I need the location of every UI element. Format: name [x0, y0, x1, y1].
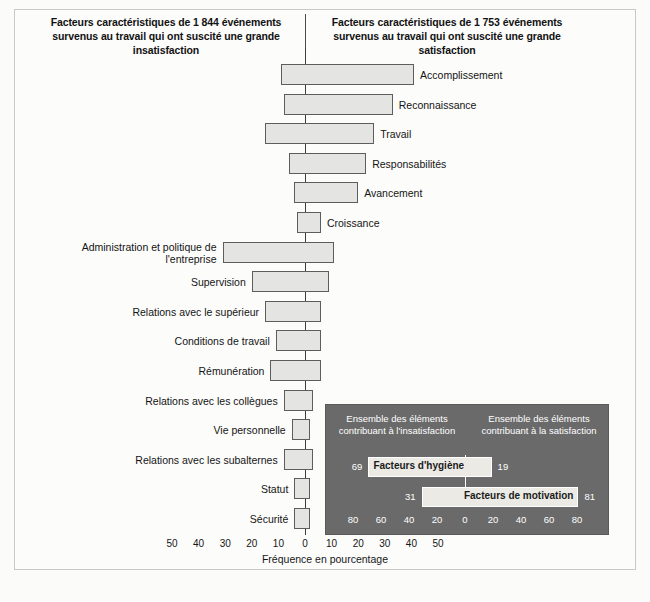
bar-label: Relations avec le supérieur	[132, 306, 259, 318]
inset-bar-label: Facteurs d'hygiène	[373, 460, 464, 471]
bar-row: Croissance	[0, 212, 650, 234]
bar-row: Conditions de travail	[0, 330, 650, 352]
inset-tick-40-2: 40	[399, 514, 419, 525]
inset-bar-row: Facteurs d'hygiène6919	[326, 457, 610, 477]
bar-label: Vie personnelle	[213, 424, 285, 436]
axis-tick-30-2: 30	[214, 538, 236, 549]
bar-row: Relations avec le supérieur	[0, 301, 650, 323]
figure-caption-top	[6, 0, 646, 8]
bar-12	[284, 390, 313, 411]
bar-label: Accomplissement	[420, 69, 502, 81]
inset-tick-20-5: 20	[483, 514, 503, 525]
inset-tick-20-3: 20	[427, 514, 447, 525]
bar-11	[270, 360, 321, 381]
axis-tick-50-10: 50	[427, 538, 449, 549]
bar-label: Administration et politique de l'entrepr…	[37, 241, 217, 266]
bar-row: Supervision	[0, 271, 650, 293]
bar-label: Supervision	[191, 276, 246, 288]
bar-label: Travail	[380, 128, 411, 140]
header-insatisfaction: Facteurs caractéristiques de 1 844 événe…	[35, 15, 297, 57]
bar-label: Statut	[261, 483, 288, 495]
bar-7	[223, 242, 335, 263]
bar-row: Avancement	[0, 182, 650, 204]
bar-row: Travail	[0, 123, 650, 145]
bar-13	[292, 419, 311, 440]
bar-label: Reconnaissance	[399, 99, 477, 111]
inset-header-insatisfaction: Ensemble des éléments contribuant à l'in…	[334, 413, 460, 437]
bar-16	[294, 508, 310, 529]
inset-tick-80-8: 80	[567, 514, 587, 525]
inset-tick-80-0: 80	[343, 514, 363, 525]
inset-tick-40-6: 40	[511, 514, 531, 525]
bar-label: Conditions de travail	[175, 335, 270, 347]
bar-1	[281, 64, 414, 85]
inset-value-left: 31	[405, 491, 416, 502]
bar-row: Responsabilités	[0, 153, 650, 175]
bar-2	[284, 94, 393, 115]
bar-row: Administration et politique de l'entrepr…	[0, 242, 650, 264]
axis-tick-10-6: 10	[321, 538, 343, 549]
header-satisfaction: Facteurs caractéristiques de 1 753 événe…	[313, 15, 581, 57]
bar-14	[284, 449, 313, 470]
bar-5	[294, 182, 358, 203]
axis-tick-10-4: 10	[267, 538, 289, 549]
bar-label: Responsabilités	[372, 158, 446, 170]
axis-tick-30-8: 30	[374, 538, 396, 549]
inset-tick-60-7: 60	[539, 514, 559, 525]
inset-bar-row: Facteurs de motivation3181	[326, 487, 610, 507]
axis-tick-40-1: 40	[188, 538, 210, 549]
bar-row: Accomplissement	[0, 64, 650, 86]
axis-tick-20-3: 20	[241, 538, 263, 549]
inset-value-right: 19	[498, 461, 509, 472]
bar-label: Relations avec les collègues	[145, 395, 278, 407]
inset-value-left: 69	[352, 461, 363, 472]
bar-8	[252, 271, 329, 292]
axis-tick-20-7: 20	[347, 538, 369, 549]
inset-panel: Ensemble des éléments contribuant à l'in…	[325, 404, 609, 535]
inset-bar-label: Facteurs de motivation	[464, 490, 573, 501]
bar-label: Rémunération	[198, 365, 264, 377]
bar-15	[294, 478, 310, 499]
bar-label: Relations avec les subalternes	[135, 454, 277, 466]
bar-label: Avancement	[364, 187, 422, 199]
bar-label: Croissance	[327, 217, 380, 229]
bar-row: Reconnaissance	[0, 94, 650, 116]
bar-label: Sécurité	[250, 513, 289, 525]
inset-tick-0-4: 0	[455, 514, 475, 525]
bar-10	[276, 330, 321, 351]
bar-3	[265, 123, 374, 144]
bar-4	[289, 153, 366, 174]
inset-value-right: 81	[584, 491, 595, 502]
inset-tick-60-1: 60	[371, 514, 391, 525]
axis-tick-0-5: 0	[294, 538, 316, 549]
bar-6	[297, 212, 321, 233]
bar-9	[265, 301, 321, 322]
axis-title: Fréquence en pourcentage	[0, 553, 650, 565]
source-note	[16, 589, 636, 601]
axis-tick-40-9: 40	[400, 538, 422, 549]
bar-row: Rémunération	[0, 360, 650, 382]
inset-header-satisfaction: Ensemble des éléments contribuant à la s…	[476, 413, 602, 437]
header-divider	[305, 14, 306, 48]
axis-tick-50-0: 50	[161, 538, 183, 549]
